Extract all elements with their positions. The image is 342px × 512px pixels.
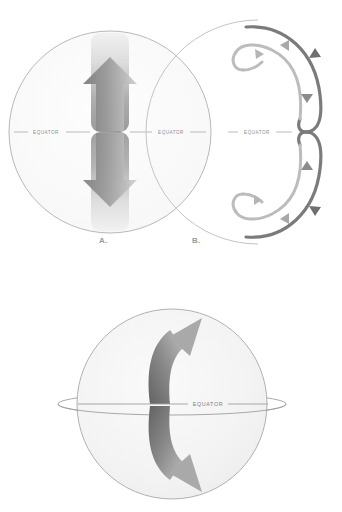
panel-b-equator-label: EQUATOR — [244, 130, 270, 135]
southern-loop-arrowhead-up — [301, 161, 313, 170]
northern-loop-left-turn — [233, 52, 243, 70]
panel-b-letter: B. — [192, 236, 200, 245]
southern-loop-turn — [299, 132, 308, 145]
panel-a: EQUATOR EQUATOR — [9, 31, 211, 233]
northern-loop-inner — [236, 45, 301, 119]
southern-loop-inner — [236, 145, 301, 219]
southern-loop-outer — [246, 132, 321, 237]
southern-loop-arrowhead-left — [254, 195, 262, 205]
northern-loop-inner-tail — [243, 62, 262, 70]
figure-canvas: EQUATOR EQUATOR — [0, 0, 342, 512]
northern-loop-arrowhead-up — [309, 48, 321, 58]
southern-loop-arrowhead-return — [280, 213, 289, 224]
panel-b-northern-loop — [233, 27, 321, 132]
northern-loop-arrowhead-outbound — [280, 40, 289, 51]
southern-loop-arrowhead-down — [309, 206, 321, 216]
northern-loop-arrowhead-right — [255, 49, 264, 59]
panel-c: EQUATOR — [58, 309, 286, 499]
northern-loop-outer — [246, 27, 321, 132]
panel-a-northward-arrow — [83, 33, 137, 132]
northern-loop-turn — [299, 119, 308, 132]
panel-b-southern-loop — [233, 132, 321, 237]
panel-b-equator: EQUATOR — [228, 130, 292, 135]
northern-loop-arrowhead-down — [301, 94, 313, 103]
southern-loop-left-turn — [233, 194, 243, 212]
panel-a-letter: A. — [99, 236, 107, 245]
panel-a-southward-arrow — [83, 132, 137, 231]
panel-a-equator-right-label: EQUATOR — [158, 130, 184, 135]
panel-a-equator-left-label: EQUATOR — [33, 130, 59, 135]
panel-c-equator-label: EQUATOR — [193, 401, 223, 407]
figure-root: EQUATOR EQUATOR — [0, 0, 342, 512]
